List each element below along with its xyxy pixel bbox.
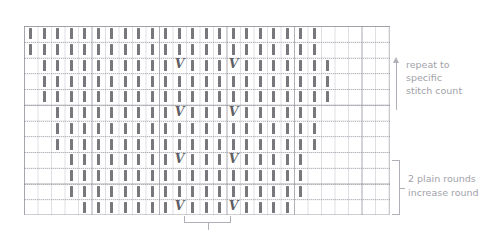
knit-stitch-symbol — [56, 44, 59, 55]
knit-stitch-symbol — [124, 60, 127, 71]
knit-stitch-symbol — [70, 154, 73, 165]
knit-stitch-symbol — [137, 28, 140, 39]
knit-stitch-symbol — [151, 91, 154, 102]
knit-stitch-symbol — [110, 76, 113, 87]
knit-stitch-symbol — [259, 186, 262, 197]
knit-stitch-symbol — [205, 170, 208, 181]
knit-stitch-symbol — [178, 76, 181, 87]
increase-stitch-symbol: V — [229, 106, 238, 119]
knit-stitch-symbol — [218, 170, 221, 181]
row-separator — [24, 184, 390, 185]
knit-stitch-symbol — [232, 139, 235, 150]
row-separator — [24, 136, 390, 137]
knit-stitch-symbol — [43, 44, 46, 55]
knit-stitch-symbol — [259, 107, 262, 118]
knit-stitch-symbol — [232, 186, 235, 197]
knit-stitch-symbol — [83, 154, 86, 165]
knit-stitch-symbol — [245, 202, 248, 213]
row-separator — [24, 121, 390, 122]
knit-stitch-symbol — [83, 91, 86, 102]
knit-stitch-symbol — [245, 154, 248, 165]
knit-stitch-symbol — [191, 44, 194, 55]
knit-stitch-symbol — [97, 91, 100, 102]
knit-stitch-symbol — [124, 28, 127, 39]
knit-stitch-symbol — [232, 44, 235, 55]
knit-stitch-symbol — [259, 44, 262, 55]
repeat-arrow-icon — [396, 62, 397, 110]
knit-stitch-symbol — [151, 139, 154, 150]
knit-stitch-symbol — [97, 107, 100, 118]
knit-stitch-symbol — [164, 28, 167, 39]
knit-stitch-symbol — [137, 91, 140, 102]
knit-stitch-symbol — [205, 154, 208, 165]
knit-stitch-symbol — [83, 123, 86, 134]
knit-stitch-symbol — [245, 28, 248, 39]
knit-stitch-symbol — [164, 91, 167, 102]
knit-stitch-symbol — [164, 76, 167, 87]
row-separator — [24, 73, 390, 74]
knit-stitch-symbol — [83, 170, 86, 181]
row-separator — [24, 152, 390, 153]
knit-stitch-symbol — [245, 44, 248, 55]
knit-stitch-symbol — [97, 60, 100, 71]
knit-stitch-symbol — [272, 170, 275, 181]
knit-stitch-symbol — [151, 186, 154, 197]
knit-stitch-symbol — [299, 91, 302, 102]
knit-stitch-symbol — [56, 139, 59, 150]
knit-stitch-symbol — [124, 76, 127, 87]
knit-stitch-symbol — [299, 154, 302, 165]
knit-stitch-symbol — [97, 186, 100, 197]
knit-stitch-symbol — [218, 28, 221, 39]
repeat-annotation-line1: repeat to — [406, 58, 450, 71]
knit-stitch-symbol — [151, 76, 154, 87]
knit-stitch-symbol — [286, 76, 289, 87]
knit-stitch-symbol — [43, 91, 46, 102]
knit-stitch-symbol — [272, 186, 275, 197]
knit-stitch-symbol — [218, 107, 221, 118]
knit-stitch-symbol — [191, 123, 194, 134]
knit-stitch-symbol — [43, 76, 46, 87]
knit-stitch-symbol — [83, 107, 86, 118]
knit-stitch-symbol — [83, 60, 86, 71]
knit-stitch-symbol — [259, 76, 262, 87]
knit-stitch-symbol — [313, 91, 316, 102]
repeat-annotation-line3: stitch count — [406, 84, 462, 97]
knit-stitch-symbol — [70, 170, 73, 181]
knit-stitch-symbol — [137, 139, 140, 150]
knit-stitch-symbol — [191, 91, 194, 102]
knit-stitch-symbol — [110, 170, 113, 181]
increase-stitch-symbol: V — [229, 153, 238, 166]
knit-stitch-symbol — [97, 154, 100, 165]
knit-stitch-symbol — [286, 139, 289, 150]
knit-stitch-symbol — [232, 123, 235, 134]
knit-stitch-symbol — [313, 76, 316, 87]
knit-stitch-symbol — [299, 60, 302, 71]
knit-stitch-symbol — [205, 123, 208, 134]
knit-stitch-symbol — [313, 28, 316, 39]
increase-stitch-symbol: V — [175, 106, 184, 119]
knit-stitch-symbol — [151, 154, 154, 165]
knit-stitch-symbol — [164, 123, 167, 134]
knit-stitch-symbol — [137, 170, 140, 181]
knit-stitch-symbol — [286, 91, 289, 102]
knit-stitch-symbol — [110, 91, 113, 102]
knit-stitch-symbol — [286, 186, 289, 197]
knit-stitch-symbol — [299, 123, 302, 134]
knit-stitch-symbol — [110, 60, 113, 71]
knit-stitch-symbol — [124, 154, 127, 165]
knit-stitch-symbol — [70, 91, 73, 102]
knit-stitch-symbol — [56, 107, 59, 118]
knit-stitch-symbol — [218, 186, 221, 197]
knit-stitch-symbol — [70, 139, 73, 150]
knit-stitch-symbol — [83, 186, 86, 197]
increase-stitch-symbol: V — [175, 200, 184, 213]
row-separator — [24, 199, 390, 200]
knit-stitch-symbol — [326, 76, 329, 87]
knit-stitch-symbol — [83, 28, 86, 39]
knit-stitch-symbol — [272, 107, 275, 118]
rounds-annotation-line1: 2 plain rounds — [408, 172, 476, 185]
knit-stitch-symbol — [218, 76, 221, 87]
knit-stitch-symbol — [56, 28, 59, 39]
knit-stitch-symbol — [259, 154, 262, 165]
knit-stitch-symbol — [326, 60, 329, 71]
